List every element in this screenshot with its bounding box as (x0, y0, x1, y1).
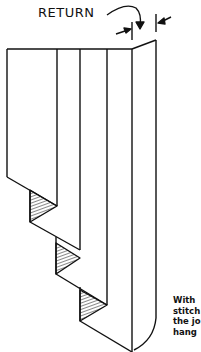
caption-text: With stitch the jo hang (173, 295, 201, 337)
caption-line-2: stitch (173, 306, 200, 316)
drapery-fold-diagram (0, 0, 201, 352)
fold-shadow-3 (80, 290, 107, 321)
caption-line-1: With (173, 295, 195, 305)
caption-line-3: the jo (173, 316, 201, 326)
return-top-edge (132, 40, 156, 49)
return-panel-edge (134, 40, 156, 350)
fold-shadow-1 (30, 190, 57, 222)
caption-line-4: hang (173, 327, 197, 337)
